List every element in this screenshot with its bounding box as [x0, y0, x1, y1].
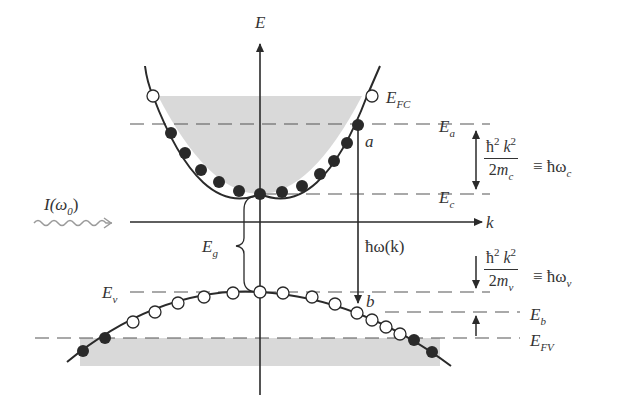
conduction-energy-equiv: ≡ ħωc — [533, 158, 571, 175]
valence-holes — [127, 286, 406, 340]
bandgap-label: Eg — [202, 238, 218, 255]
valence-energy-fraction: ħ2 k2 2mv — [484, 249, 518, 290]
point-a-label: a — [365, 133, 374, 150]
ev-label: Ev — [102, 284, 117, 301]
eb-label: Eb — [530, 306, 546, 323]
efv-label: EFV — [530, 332, 554, 349]
point-b-label: b — [366, 293, 375, 310]
conduction-fermi-label: EFC — [386, 89, 410, 106]
ea-label: Ea — [439, 118, 455, 135]
ec-label: Ec — [439, 189, 454, 206]
band-diagram: E k I(ω0) Eg ħω(k) a b EFC Ea Ec ħ2 k2 2… — [0, 0, 617, 408]
energy-axis-label: E — [255, 14, 265, 31]
incident-light-label: I(ω0) — [44, 196, 79, 213]
valence-energy-equiv: ≡ ħωv — [533, 268, 571, 285]
incident-light-wave — [34, 221, 112, 226]
conduction-energy-fraction: ħ2 k2 2mc — [484, 138, 518, 179]
k-axis-label: k — [486, 214, 494, 231]
bandgap-brace — [236, 196, 258, 292]
diagram-graphics — [0, 0, 617, 408]
transition-energy-label: ħω(k) — [365, 238, 405, 255]
